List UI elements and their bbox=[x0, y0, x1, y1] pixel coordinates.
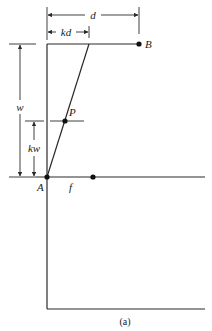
slanted-line bbox=[47, 44, 89, 177]
kd-label: kd bbox=[61, 26, 72, 38]
point-B bbox=[136, 41, 141, 46]
diagram-canvas: d kd w kw B P A f (a) bbox=[0, 0, 212, 331]
point-f bbox=[90, 174, 95, 179]
point-P bbox=[62, 118, 67, 123]
A-label: A bbox=[36, 181, 44, 193]
point-A bbox=[44, 174, 49, 179]
f-label: f bbox=[69, 181, 74, 193]
B-label: B bbox=[145, 38, 152, 50]
P-label: P bbox=[68, 106, 76, 118]
d-label: d bbox=[90, 9, 96, 21]
kw-label: kw bbox=[28, 142, 41, 154]
w-label: w bbox=[16, 101, 24, 113]
figure-caption: (a) bbox=[119, 316, 130, 328]
